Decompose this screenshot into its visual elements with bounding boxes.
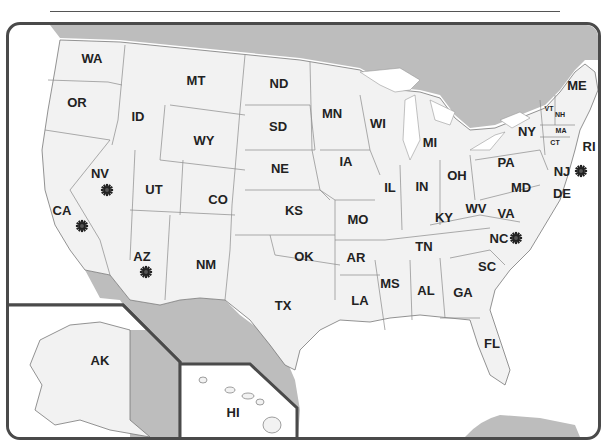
sun-marker-icon — [510, 232, 523, 245]
state-label-nh: NH — [555, 111, 565, 118]
cuba-region — [465, 415, 580, 437]
state-label-in: IN — [416, 179, 429, 194]
state-label-wv: WV — [466, 201, 487, 216]
state-label-wy: WY — [194, 133, 215, 148]
state-label-ar: AR — [347, 250, 366, 265]
state-label-md: MD — [511, 180, 531, 195]
state-label-ct: CT — [550, 139, 559, 146]
state-label-ak: AK — [91, 353, 110, 368]
state-label-oh: OH — [447, 168, 467, 183]
state-label-il: IL — [384, 180, 396, 195]
sun-marker-icon — [76, 220, 89, 233]
state-label-ri: RI — [583, 139, 596, 154]
state-label-vt: VT — [545, 105, 554, 112]
state-label-me: ME — [567, 78, 587, 93]
state-label-hi: HI — [227, 405, 240, 420]
state-label-de: DE — [553, 186, 571, 201]
state-label-ma: MA — [556, 127, 567, 134]
state-label-sc: SC — [478, 259, 496, 274]
state-label-ut: UT — [145, 182, 162, 197]
state-label-pa: PA — [497, 155, 514, 170]
state-label-ny: NY — [518, 124, 536, 139]
state-label-nd: ND — [270, 76, 289, 91]
state-label-ia: IA — [340, 154, 353, 169]
state-label-ca: CA — [53, 203, 72, 218]
state-label-fl: FL — [484, 336, 500, 351]
state-label-ok: OK — [294, 249, 314, 264]
state-label-nm: NM — [196, 257, 216, 272]
sun-marker-icon — [575, 165, 588, 178]
state-label-wa: WA — [82, 51, 103, 66]
state-label-ms: MS — [380, 276, 400, 291]
state-label-ga: GA — [453, 285, 473, 300]
state-label-ks: KS — [285, 203, 303, 218]
state-label-mn: MN — [322, 106, 342, 121]
state-label-nv: NV — [91, 166, 109, 181]
state-label-sd: SD — [269, 119, 287, 134]
state-label-az: AZ — [133, 249, 150, 264]
state-label-mt: MT — [187, 73, 206, 88]
sun-marker-icon — [140, 266, 153, 279]
state-label-id: ID — [132, 109, 145, 124]
state-label-al: AL — [417, 283, 434, 298]
state-label-la: LA — [351, 293, 368, 308]
state-label-ne: NE — [271, 161, 289, 176]
state-label-nj: NJ — [554, 164, 571, 179]
state-label-tx: TX — [275, 298, 292, 313]
us-map — [0, 0, 610, 448]
state-label-or: OR — [67, 95, 87, 110]
state-label-co: CO — [208, 192, 228, 207]
sun-marker-icon — [101, 184, 114, 197]
state-label-va: VA — [497, 206, 514, 221]
state-label-mo: MO — [348, 212, 369, 227]
state-label-wi: WI — [370, 116, 386, 131]
state-label-ky: KY — [435, 210, 453, 225]
state-label-mi: MI — [423, 135, 437, 150]
state-label-nc: NC — [490, 231, 509, 246]
state-label-tn: TN — [415, 239, 432, 254]
